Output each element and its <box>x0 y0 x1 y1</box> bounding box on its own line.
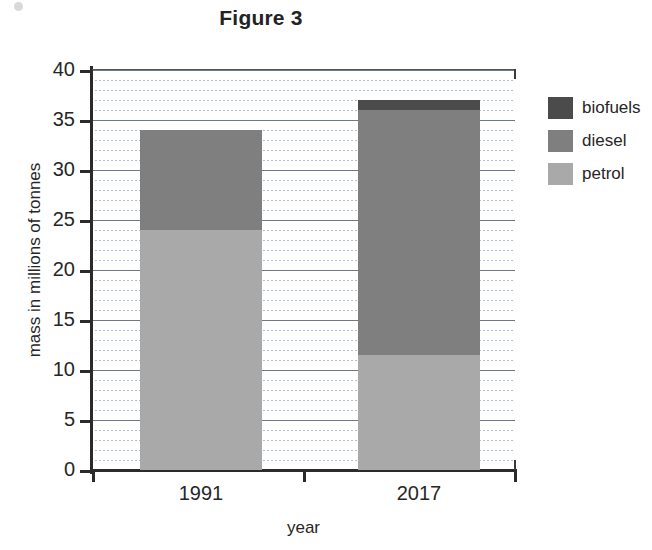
x-axis-tick <box>303 470 306 482</box>
bar-segment-biofuels-2017 <box>358 100 480 110</box>
legend-swatch-icon-petrol <box>548 163 573 185</box>
bar-segment-diesel-2017 <box>358 110 480 355</box>
x-axis-label-1991: 1991 <box>131 482 271 505</box>
y-axis-title: mass in millions of tonnes <box>25 95 45 425</box>
legend-item-biofuels[interactable]: biofuels <box>548 93 641 122</box>
y-axis-label: 10 <box>15 358 75 381</box>
y-axis-label: 15 <box>15 308 75 331</box>
y-axis-label: 35 <box>15 108 75 131</box>
y-axis-label: 25 <box>15 208 75 231</box>
legend-swatch-icon-biofuels <box>548 97 573 119</box>
bar-stack-1991 <box>140 0 262 480</box>
y-axis-label: 5 <box>15 408 75 431</box>
legend-item-petrol[interactable]: petrol <box>548 159 641 188</box>
legend: biofuelsdieselpetrol <box>548 93 641 192</box>
legend-label-petrol: petrol <box>582 164 625 184</box>
y-axis-label: 0 <box>15 458 75 481</box>
x-axis-label-2017: 2017 <box>349 482 489 505</box>
y-axis-label: 40 <box>15 58 75 81</box>
legend-item-diesel[interactable]: diesel <box>548 126 641 155</box>
legend-label-biofuels: biofuels <box>582 98 641 118</box>
legend-label-diesel: diesel <box>582 131 626 151</box>
x-axis-tick <box>92 470 95 482</box>
bar-segment-petrol-2017 <box>358 355 480 470</box>
figure-container: Figure 3 4035302520151050 19912017 mass … <box>0 0 652 550</box>
bar-segment-petrol-1991 <box>140 230 262 470</box>
bar-stack-2017 <box>358 0 480 480</box>
x-axis-tick <box>514 470 517 482</box>
plot-right-tick-top <box>514 69 516 79</box>
legend-swatch-icon-diesel <box>548 130 573 152</box>
y-axis-label: 20 <box>15 258 75 281</box>
y-axis-label: 30 <box>15 158 75 181</box>
y-axis-line <box>90 66 93 474</box>
bar-segment-diesel-1991 <box>140 130 262 230</box>
x-axis-title: year <box>92 518 515 538</box>
